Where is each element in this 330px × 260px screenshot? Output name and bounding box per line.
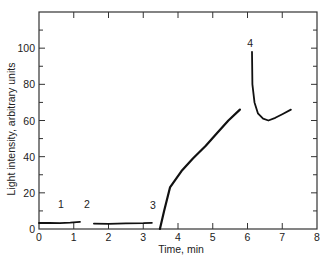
y-tick-label: 0	[29, 223, 35, 235]
series-segment-1	[39, 222, 80, 223]
x-tick-label: 3	[140, 231, 146, 243]
x-tick-label: 1	[71, 231, 77, 243]
data-series	[39, 52, 291, 229]
line-chart: 012345678 020406080100 1234 Time, min Li…	[0, 0, 330, 260]
series-segment-4-peak	[252, 52, 291, 121]
x-tick-label: 6	[245, 231, 251, 243]
annotation-label-4: 4	[247, 37, 253, 49]
y-tick-label: 60	[23, 115, 35, 127]
series-segment-3-rise	[160, 110, 240, 229]
plot-frame	[39, 12, 317, 229]
y-tick-label: 20	[23, 187, 35, 199]
y-tick-label: 40	[23, 151, 35, 163]
x-tick-label: 2	[106, 231, 112, 243]
x-tick-label: 7	[279, 231, 285, 243]
x-tick-label: 8	[314, 231, 320, 243]
series-segment-2	[94, 223, 152, 224]
y-tick-label: 100	[17, 42, 35, 54]
x-tick-label: 4	[175, 231, 181, 243]
axes-box	[39, 12, 317, 229]
annotation-label-3: 3	[150, 199, 156, 211]
y-axis-label: Light intensity, arbitrary units	[5, 63, 17, 196]
y-tick-label: 80	[23, 78, 35, 90]
x-tick-label: 0	[36, 231, 42, 243]
annotation-label-1: 1	[58, 198, 64, 210]
x-tick-label: 5	[210, 231, 216, 243]
x-axis-label: Time, min	[158, 243, 204, 255]
annotation-label-2: 2	[84, 198, 90, 210]
x-axis-ticks: 012345678	[36, 12, 320, 243]
